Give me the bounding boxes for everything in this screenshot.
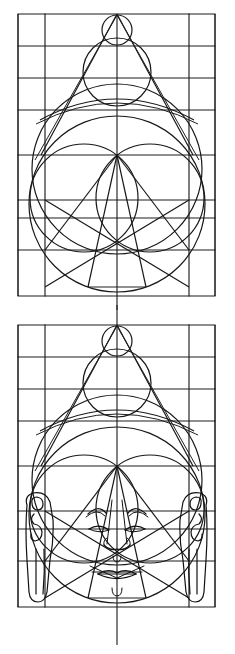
figure-top [18, 14, 215, 310]
ear-left-lobe-edge [43, 549, 44, 594]
iconometric-drawing [0, 0, 235, 654]
ear-right-lobe-edge [189, 549, 190, 594]
ear-right [180, 493, 207, 602]
figure-bottom [18, 305, 215, 645]
drawing-stage [0, 0, 235, 654]
triangle-side-right-outer [117, 15, 199, 160]
triangle-side-left-outer [35, 15, 117, 160]
triangle-side-left-outer [35, 326, 117, 471]
triangle-side-right-outer [117, 326, 199, 471]
